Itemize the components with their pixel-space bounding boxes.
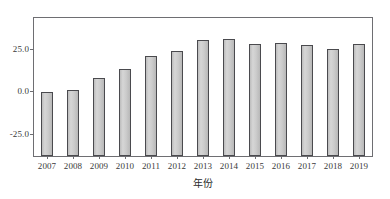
x-tick-mark — [151, 156, 152, 159]
x-tick-mark — [203, 156, 204, 159]
x-tick-label: 2017 — [298, 161, 316, 171]
plot-area: 25.00.0-25.0 200720082009201020112012201… — [33, 17, 373, 157]
y-tick-label: -25.0 — [10, 129, 29, 138]
x-tick-mark — [359, 156, 360, 159]
bar — [353, 44, 365, 156]
x-tick-mark — [255, 156, 256, 159]
y-tick-label: 25.0 — [13, 44, 29, 53]
x-tick-mark — [177, 156, 178, 159]
bar-chart-figure: 25.00.0-25.0 200720082009201020112012201… — [0, 0, 390, 199]
x-tick-label: 2009 — [90, 161, 108, 171]
x-tick-mark — [125, 156, 126, 159]
bar — [93, 78, 105, 156]
x-tick-label: 2008 — [64, 161, 82, 171]
x-tick-label: 2018 — [324, 161, 342, 171]
x-tick-label: 2007 — [38, 161, 56, 171]
x-tick-mark — [281, 156, 282, 159]
bar — [327, 49, 339, 156]
bars-layer — [34, 18, 372, 156]
x-tick-label: 2010 — [116, 161, 134, 171]
x-tick-label: 2016 — [272, 161, 290, 171]
x-tick-mark — [47, 156, 48, 159]
x-tick-label: 2012 — [168, 161, 186, 171]
x-tick-label: 2014 — [220, 161, 238, 171]
x-tick-label: 2019 — [350, 161, 368, 171]
x-tick-label: 2011 — [142, 161, 160, 171]
x-tick-mark — [307, 156, 308, 159]
bar — [301, 45, 313, 156]
x-tick-mark — [333, 156, 334, 159]
bar — [223, 39, 235, 156]
bar — [249, 44, 261, 156]
y-tick-label: 0.0 — [17, 87, 29, 96]
bar — [275, 43, 287, 156]
bar — [67, 90, 79, 156]
bar — [197, 40, 209, 156]
x-tick-label: 2015 — [246, 161, 264, 171]
bar — [145, 56, 157, 156]
x-tick-mark — [229, 156, 230, 159]
bar — [171, 51, 183, 156]
x-tick-label: 2013 — [194, 161, 212, 171]
x-axis-title: 年份 — [33, 178, 373, 189]
bar — [119, 69, 131, 156]
x-tick-mark — [99, 156, 100, 159]
bar — [41, 92, 53, 156]
x-tick-mark — [73, 156, 74, 159]
